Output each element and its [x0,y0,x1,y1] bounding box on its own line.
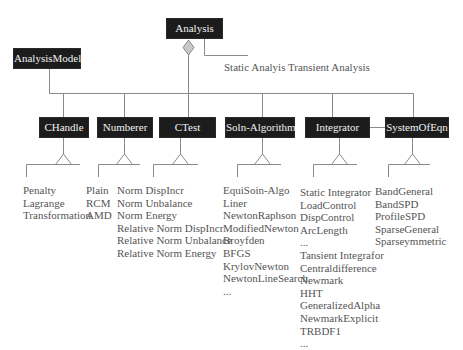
subclass-item: EquiSoin-Algo [223,184,308,197]
subclass-item: Norm Unbalance [117,197,232,210]
subclass-list-system-of-eqn: BandGeneralBandSPDProfileSPDSparseGenera… [375,185,446,248]
root-note-connector [205,39,249,56]
subclass-item: LoadControl [300,199,384,212]
subclass-list-chandle: PenaltyLagrangeTransformation [23,184,91,222]
subclass-item: NewtonLineSearch [223,272,308,285]
subclass-item: BandSPD [375,198,446,211]
generalization-triangle-icon [405,154,421,165]
component-box-chandle[interactable]: CHandle [40,118,88,137]
subclass-item: Broyfden [223,234,308,247]
branch-bracket-chandle [27,165,81,178]
subclass-item: Relative Norm DispIncr [117,222,232,235]
subclass-item: DispControl [300,211,384,224]
branch-bracket-ctest [154,165,199,178]
generalization-triangle-icon [56,154,72,165]
analysis-label: Analysis [175,22,214,34]
subclass-item: Centraldifference [300,262,384,275]
subclass-list-ctest: Norm DispIncrNorm UnbalanceNorm EnergyRe… [117,184,232,260]
subclass-list-integrator: Static IntegratorLoadControlDispControlA… [300,186,384,350]
subclass-item: NewmarkExplicit [300,312,384,325]
component-box-numberer[interactable]: Numberer [98,118,152,137]
subclass-item: ... [223,285,308,298]
subclass-item: Tansient Integrafor [300,249,384,262]
component-box-ctest[interactable]: CTest [160,118,215,137]
component-label: Soln-Algorithm [226,121,296,133]
subclass-item: ... [300,337,384,350]
subclass-item: Norm Energy [117,209,232,222]
subclass-item: RCM [86,197,112,210]
branch-bracket-soln-algorithm [238,165,282,178]
subclass-item: SparseGeneral [375,223,446,236]
root-note: Static Analyis Transient Analysis [224,61,370,73]
subclass-item: NewtonRaphson [223,209,308,222]
aggregation-diamond-icon [183,40,194,55]
subclass-item: Static Integrator [300,186,384,199]
analysis-model-label: AnalysisModel [14,52,81,64]
subclass-item: BFGS [223,247,308,260]
subclass-item: KrylovNewton [223,260,308,273]
component-label: CTest [175,121,201,133]
analysis-model-box[interactable]: AnalysisModel [14,49,80,68]
component-label: Integrator [316,121,359,133]
subclass-item: AMD [86,209,112,222]
analysis-box[interactable]: Analysis [167,19,222,38]
subclass-list-numberer: PlainRCMAMD [86,184,112,222]
component-box-system-of-eqn[interactable]: SystemOfEqn [386,118,448,137]
generalization-triangle-icon [255,154,271,165]
generalization-triangle-icon [173,154,189,165]
subclass-item: Liner [223,197,308,210]
subclass-item: Transformation [23,209,91,222]
subclass-list-soln-algorithm: EquiSoin-AlgoLinerNewtonRaphsonModifiedN… [223,184,308,297]
subclass-item: ProfileSPD [375,210,446,223]
subclass-item: HHT [300,287,384,300]
subclass-item: Newmark [300,274,384,287]
component-box-soln-algorithm[interactable]: Soln-Algorithm [226,118,294,137]
subclass-item: Plain [86,184,112,197]
component-label: Numberer [103,121,148,133]
subclass-item: Relative Norm Unbalance [117,234,232,247]
branch-bracket-integrator [314,165,358,178]
branch-bracket-numberer [99,165,141,178]
branch-bracket-system-of-eqn [389,165,431,178]
component-label: SystemOfEqn [386,121,448,133]
subclass-item: Penalty [23,184,91,197]
subclass-item: Sparseymmetric [375,235,446,248]
subclass-item: Norm DispIncr [117,184,232,197]
generalization-triangle-icon [332,154,348,165]
subclass-item: GeneralizedAlpha [300,299,384,312]
component-label: CHandle [44,121,83,133]
subclass-item: Lagrange [23,197,91,210]
subclass-item: Relative Norm Energy [117,247,232,260]
generalization-triangle-icon [117,154,133,165]
subclass-item: TRBDF1 [300,325,384,338]
subclass-item: ... [300,236,384,249]
subclass-item: ModifiedNewton [223,222,308,235]
component-box-integrator[interactable]: Integrator [306,118,369,137]
subclass-item: BandGeneral [375,185,446,198]
subclass-item: ArcLength [300,224,384,237]
